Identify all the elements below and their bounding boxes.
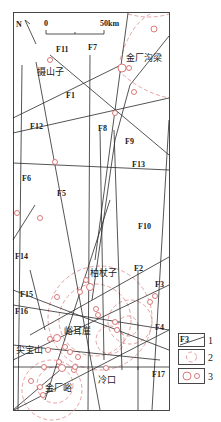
fault-label-f1: F1 [66, 91, 75, 100]
fault-label-f5: F5 [57, 189, 66, 198]
fault-label-f12: F12 [30, 122, 43, 131]
place-jinchanggouliang: 金厂沟梁 [126, 52, 162, 63]
deposit-points [15, 26, 158, 398]
legend-item-dashed-circle: 2 [179, 350, 214, 365]
legend-item-deposit-circles: 3 [179, 369, 214, 384]
fault-label-f11: F11 [56, 45, 68, 54]
fault-label-f7: F7 [88, 43, 97, 52]
fault-label-f2: F2 [134, 264, 143, 273]
scale-end: 50km [100, 19, 119, 28]
place-baizhangzi: 柏杖子 [90, 267, 117, 278]
scale-start: 0 [44, 19, 48, 28]
fault-label-f16: F16 [15, 307, 28, 316]
legend-num-2: 2 [208, 352, 213, 363]
fault-label-f6: F6 [22, 174, 31, 183]
fault-label-f3: F3 [155, 280, 164, 289]
place-yuerya: 峪耳崖 [64, 326, 91, 336]
geologic-fault-map: N 0 50km [0, 0, 221, 422]
place-jianbaoshan: 尖宝山 [16, 344, 43, 355]
fault-label-f17: F17 [152, 370, 165, 379]
north-label: N [16, 20, 22, 29]
place-yaoshanzi: 摄山子 [37, 66, 64, 77]
place-lengkou: 冷口 [98, 374, 116, 385]
fault-label-f14: F14 [15, 252, 28, 261]
legend-num-1: 1 [208, 335, 213, 346]
place-jinchangyu: 金厂峪 [45, 382, 72, 393]
legend-item-fault: F3 1 [179, 334, 214, 347]
legend: F3 1 2 3 [179, 334, 214, 384]
fault-label-f9: F9 [125, 137, 134, 146]
legend-num-3: 3 [208, 371, 213, 382]
fault-label-f10: F10 [138, 222, 151, 231]
fault-label-f8: F8 [98, 124, 107, 133]
north-arrow-icon: N [16, 20, 36, 44]
fault-label-f15: F15 [20, 290, 33, 299]
legend-fault-symbol-label: F3 [180, 335, 189, 344]
scale-bar: 0 50km [44, 19, 119, 34]
fault-label-f4: F4 [155, 323, 164, 332]
fault-label-f13: F13 [132, 160, 145, 169]
